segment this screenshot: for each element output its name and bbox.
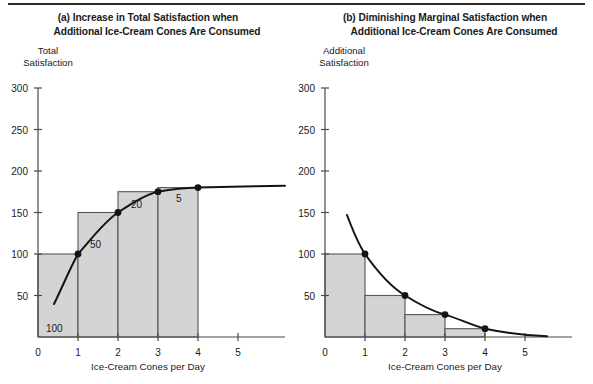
data-point-b-1 xyxy=(362,251,369,258)
panel-a-ytick-50: 50 xyxy=(17,291,29,302)
data-point-b-3 xyxy=(442,311,449,318)
panel-b-x-axis-title: Ice-Cream Cones per Day xyxy=(297,361,593,372)
bar-a-1-label: 100 xyxy=(46,323,63,334)
panel-a-xtick-4: 4 xyxy=(195,347,201,358)
panel-b-ytick-100: 100 xyxy=(298,249,315,260)
panel-b-xtick-4: 4 xyxy=(482,347,488,358)
bar-a-4-label: 5 xyxy=(176,193,182,204)
panel-a-xtick-2: 2 xyxy=(115,347,121,358)
panel-a-ytick-250: 250 xyxy=(11,125,28,136)
bar-b-4 xyxy=(445,329,485,337)
panel-b-ytick-50: 50 xyxy=(304,291,316,302)
data-point-a-4 xyxy=(195,184,202,191)
panel-a-xtick-5: 5 xyxy=(235,347,241,358)
panel-b-ytick-250: 250 xyxy=(298,125,315,136)
figure-root: (a) Increase in Total Satisfaction when … xyxy=(0,0,593,384)
panel-b: (b) Diminishing Marginal Satisfaction wh… xyxy=(297,0,593,384)
bar-a-3 xyxy=(118,192,158,337)
bar-a-4 xyxy=(158,188,198,337)
data-point-b-4 xyxy=(482,325,489,332)
panel-a-ytick-150: 150 xyxy=(11,208,28,219)
data-point-a-2 xyxy=(115,209,122,216)
panel-b-xtick-2: 2 xyxy=(402,347,408,358)
panel-b-ytick-200: 200 xyxy=(298,166,315,177)
data-point-a-3 xyxy=(155,188,162,195)
panel-a-plot: 100 50 20 5 300 250 200 150 100 50 xyxy=(0,0,296,384)
panel-a-ytick-300: 300 xyxy=(11,83,28,94)
panel-b-xtick-5: 5 xyxy=(522,347,528,358)
panel-a-ytick-100: 100 xyxy=(11,249,28,260)
panel-a-ytick-200: 200 xyxy=(11,166,28,177)
panel-a-xtick-0: 0 xyxy=(35,347,41,358)
panel-a-xtick-3: 3 xyxy=(155,347,161,358)
panel-a-x-axis-title: Ice-Cream Cones per Day xyxy=(0,361,296,372)
panel-a-xtick-1: 1 xyxy=(75,347,81,358)
panel-a: (a) Increase in Total Satisfaction when … xyxy=(0,0,296,384)
bar-b-1 xyxy=(325,254,365,337)
panel-b-xtick-0: 0 xyxy=(322,347,328,358)
data-point-a-1 xyxy=(75,251,82,258)
panel-b-xtick-1: 1 xyxy=(362,347,368,358)
bar-b-2 xyxy=(365,296,405,338)
panel-b-xtick-3: 3 xyxy=(442,347,448,358)
panel-b-ytick-150: 150 xyxy=(298,208,315,219)
bar-b-3 xyxy=(405,315,445,337)
bar-a-2-label: 50 xyxy=(90,239,102,250)
data-point-b-2 xyxy=(402,292,409,299)
panel-b-ytick-300: 300 xyxy=(298,83,315,94)
panel-b-plot: 300 250 200 150 100 50 0 1 2 3 4 5 xyxy=(297,0,593,384)
